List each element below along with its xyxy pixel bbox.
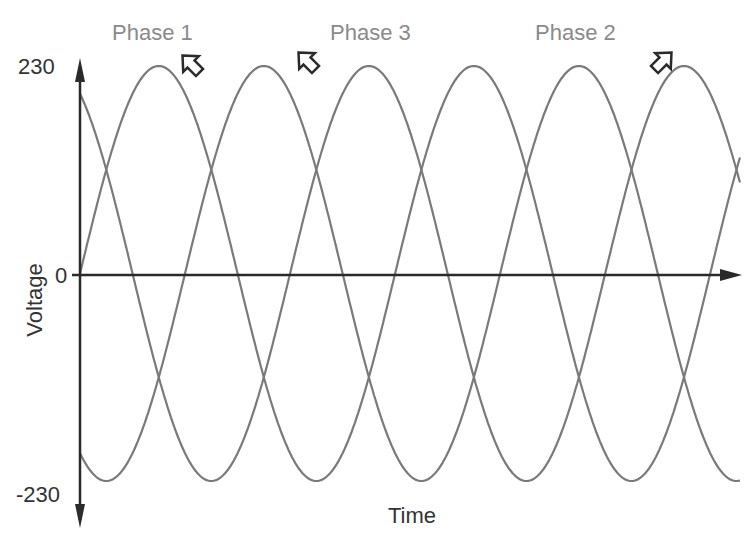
legend-label-phase-1: Phase 1 [112, 20, 193, 45]
y-tick-label-max: 230 [18, 54, 55, 79]
y-tick-label-min: -230 [16, 482, 60, 507]
phase-3-pointer-arrow-icon [291, 45, 324, 78]
x-axis-title: Time [388, 503, 436, 528]
three-phase-voltage-chart: 230 0 -230 Voltage Time Phase 1 Phase 3 … [0, 0, 756, 541]
legend-label-phase-2: Phase 2 [535, 20, 616, 45]
phase-2-pointer-arrow-icon [647, 45, 680, 78]
x-axis-arrow-icon [720, 269, 742, 281]
series-line-phase-2 [80, 66, 740, 481]
legend-label-phase-3: Phase 3 [330, 20, 411, 45]
series-line-phase-1 [80, 66, 740, 481]
y-axis-up-arrow-icon [75, 58, 85, 82]
curves-layer [80, 66, 740, 481]
y-axis-down-arrow-icon [75, 504, 85, 528]
y-tick-label-zero: 0 [55, 263, 67, 288]
phase-1-pointer-arrow-icon [175, 48, 208, 81]
series-line-phase-3 [80, 66, 740, 481]
y-axis-title: Voltage [22, 263, 47, 336]
